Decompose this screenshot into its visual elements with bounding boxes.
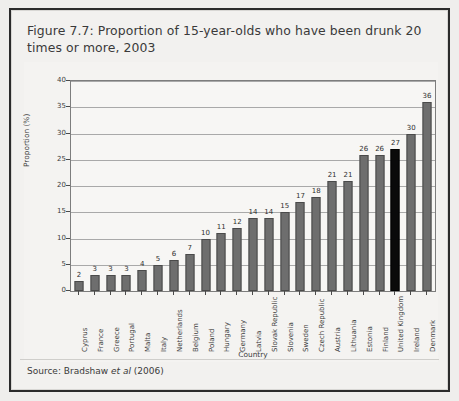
bar[interactable] — [74, 281, 83, 292]
bar-slot: 14 — [261, 81, 277, 291]
x-axis-tick-mark — [252, 291, 253, 295]
bar-value-label: 14 — [264, 208, 273, 216]
y-axis-tick-label: 5 — [44, 260, 66, 268]
source-suffix: (2006) — [131, 366, 164, 376]
x-axis-tick-label: Hungary — [223, 322, 231, 352]
bar[interactable] — [138, 270, 147, 291]
bar[interactable] — [154, 265, 163, 291]
bar-value-label: 27 — [391, 139, 400, 147]
x-axis-tick-label: Estonia — [366, 326, 374, 352]
x-axis-tick-mark — [157, 291, 158, 295]
bar-slot: 26 — [356, 81, 372, 291]
y-axis-tick-label: 40 — [44, 76, 66, 84]
x-axis-tick-label: Germany — [239, 320, 247, 352]
x-axis-tick-mark — [78, 291, 79, 295]
x-axis-tick-label: Netherlands — [176, 309, 184, 352]
y-axis-tick-label: 30 — [44, 129, 66, 137]
bars-layer: 23334567101112141415171821212626273036 — [71, 81, 435, 291]
bar-slot: 30 — [403, 81, 419, 291]
bar[interactable] — [122, 275, 131, 291]
bar-value-label: 6 — [172, 250, 176, 258]
bar-slot: 3 — [118, 81, 134, 291]
bar-slot: 6 — [166, 81, 182, 291]
bar-value-label: 3 — [108, 265, 112, 273]
bar[interactable] — [423, 102, 432, 291]
bar[interactable] — [233, 228, 242, 291]
y-axis-tick-label: 0 — [44, 286, 66, 294]
x-axis-tick-label: Portugal — [128, 323, 136, 352]
bar[interactable] — [312, 197, 321, 292]
bar-value-label: 26 — [359, 145, 368, 153]
x-axis-title: Country — [70, 350, 436, 359]
x-axis-tick-mark — [347, 291, 348, 295]
bar-slot: 10 — [198, 81, 214, 291]
bar[interactable] — [106, 275, 115, 291]
bar-slot: 26 — [372, 81, 388, 291]
x-axis-tick-label: Sweden — [302, 324, 310, 352]
y-axis-tick-label: 10 — [44, 234, 66, 242]
bar-slot: 7 — [182, 81, 198, 291]
bar-value-label: 36 — [423, 92, 432, 100]
x-axis-tick-label: Czech Republic — [318, 299, 326, 352]
y-axis-tick-label: 15 — [44, 207, 66, 215]
bar-slot: 4 — [134, 81, 150, 291]
bar-value-label: 18 — [312, 187, 321, 195]
x-axis-tick-label: Cyprus — [81, 328, 89, 352]
bar[interactable] — [280, 212, 289, 291]
bar-value-label: 7 — [187, 244, 191, 252]
bar[interactable] — [359, 155, 368, 292]
bar[interactable] — [169, 260, 178, 292]
bar[interactable] — [185, 254, 194, 291]
bar-slot: 3 — [87, 81, 103, 291]
x-axis-tick-mark — [268, 291, 269, 295]
x-axis-tick-mark — [379, 291, 380, 295]
bar-value-label: 14 — [249, 208, 258, 216]
x-axis-tick-label: Denmark — [429, 320, 437, 352]
bar-slot: 12 — [229, 81, 245, 291]
y-axis-title: Proportion (%) — [22, 114, 31, 167]
bar[interactable] — [296, 202, 305, 291]
bar[interactable] — [343, 181, 352, 291]
x-axis-tick-label: Finland — [382, 327, 390, 352]
x-axis-tick-label: Latvia — [255, 331, 263, 352]
bar-slot: 5 — [150, 81, 166, 291]
x-axis-tick-label: Ireland — [413, 328, 421, 352]
bar-slot: 27 — [388, 81, 404, 291]
bar-value-label: 2 — [77, 271, 81, 279]
bar-value-label: 21 — [343, 171, 352, 179]
bar[interactable] — [217, 233, 226, 291]
bar[interactable] — [375, 155, 384, 292]
bar[interactable] — [201, 239, 210, 292]
bar-value-label: 3 — [124, 265, 128, 273]
bar-slot: 17 — [293, 81, 309, 291]
bar[interactable] — [407, 134, 416, 292]
bar-slot: 18 — [308, 81, 324, 291]
x-axis-tick-label: Austria — [334, 327, 342, 352]
bar-value-label: 26 — [375, 145, 384, 153]
bar[interactable] — [391, 149, 400, 291]
bar-slot: 11 — [213, 81, 229, 291]
y-axis-tick-label: 20 — [44, 181, 66, 189]
bar[interactable] — [328, 181, 337, 291]
bar-slot: 14 — [245, 81, 261, 291]
bar-value-label: 11 — [217, 223, 226, 231]
bar[interactable] — [248, 218, 257, 292]
x-axis-tick-mark — [331, 291, 332, 295]
x-axis-tick-mark — [315, 291, 316, 295]
x-axis-tick-mark — [284, 291, 285, 295]
figure-title: Figure 7.7: Proportion of 15-year-olds w… — [27, 22, 431, 56]
bar[interactable] — [90, 275, 99, 291]
x-axis-tick-label: Poland — [208, 329, 216, 352]
bar-slot: 21 — [340, 81, 356, 291]
x-axis-tick-mark — [173, 291, 174, 295]
chart-panel: Proportion (%) 0510152025303540 23334567… — [24, 62, 438, 362]
bar-slot: 15 — [277, 81, 293, 291]
x-axis-tick-mark — [394, 291, 395, 295]
bar-slot: 2 — [71, 81, 87, 291]
x-axis-tick-mark — [410, 291, 411, 295]
y-axis-tick-label: 35 — [44, 102, 66, 110]
figure-frame: Figure 7.7: Proportion of 15-year-olds w… — [9, 8, 450, 392]
x-axis-tick-label: Greece — [113, 327, 121, 352]
bar[interactable] — [264, 218, 273, 292]
x-axis-tick-mark — [236, 291, 237, 295]
